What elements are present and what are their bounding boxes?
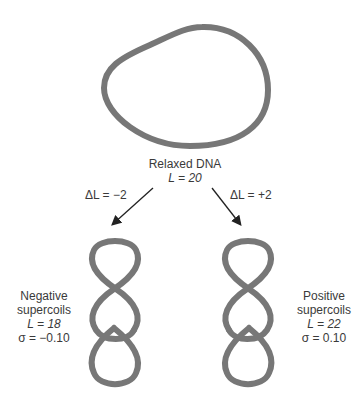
negative-supercoil (92, 241, 138, 384)
relaxed-dna-loop (104, 27, 268, 146)
negative-supercoil-label: Negative supercoils L = 18 σ = −0.10 (8, 289, 80, 345)
relaxed-title: Relaxed DNA (140, 157, 230, 171)
positive-supercoil-label: Positive supercoils L = 22 σ = 0.10 (290, 289, 358, 345)
arrow-right-label: ΔL = +2 (230, 188, 300, 202)
supercoiling-diagram (0, 0, 361, 412)
relaxed-linking: L = 20 (140, 171, 230, 185)
arrow-left-label: ΔL = −2 (85, 188, 145, 202)
relaxed-dna-label: Relaxed DNA L = 20 (140, 157, 230, 185)
positive-supercoil (225, 241, 271, 384)
